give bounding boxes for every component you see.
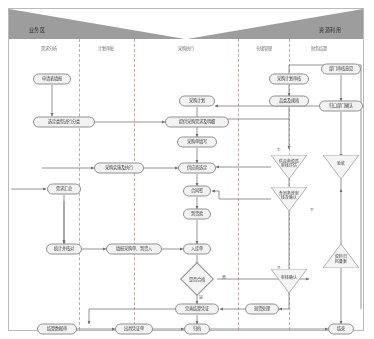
node-label: 采购计划审核 (277, 77, 301, 82)
node-采购实施执行[interactable]: 采购实施及执行 (94, 163, 144, 174)
edge-label-no: 否 (222, 274, 226, 280)
node-统计核对[interactable]: 统计并核对 (46, 244, 82, 255)
node-采购计划[interactable]: 采购计划 (179, 96, 215, 107)
node-label: 品类及规格 (279, 99, 299, 104)
node-label: 结束 (337, 327, 345, 332)
node-label: 资料归档备案 (335, 247, 347, 264)
node-label: 供应商资质审核评估 (279, 159, 299, 175)
node-label: 出具凭证单 (124, 327, 144, 332)
node-label: 到货验 (191, 212, 203, 217)
node-label: 申请表填报 (42, 77, 62, 82)
node-结算数据审[interactable]: 结算数据审 (37, 324, 77, 335)
diagram-frame: 业务区 资源利用 需求分析 计划审批 采购执行 仓储管理 财务结算 (8, 8, 364, 331)
node-label: 合同条款审核及确认 (279, 191, 299, 207)
node-label: 采购单填写 (187, 140, 207, 145)
node-退货处理[interactable]: 退货处理 (245, 304, 279, 315)
node-label: 验收 (337, 161, 345, 172)
node-需求汇总[interactable]: 需求汇总 (47, 184, 81, 195)
node-label: 审核确认 (281, 275, 297, 286)
node-填报采购单[interactable]: 填报采购单、到货入 (106, 244, 162, 255)
edge-marker-3: ③ (277, 265, 281, 270)
node-资料归档备案[interactable]: 资料归档备案 (323, 244, 359, 268)
node-入库单[interactable]: 入库单 (183, 244, 211, 255)
node-label: 采购实施及执行 (105, 166, 133, 171)
node-label: 选定类型进行分类 (48, 120, 80, 125)
edge-marker-2: ② (310, 207, 314, 212)
screenshot-root: 业务区 资源利用 需求分析 计划审批 采购执行 仓储管理 财务结算 (0, 0, 374, 339)
node-供应商选定[interactable]: 供应商选定 (178, 163, 216, 174)
node-label: 归口部门确认 (329, 104, 353, 109)
node-采购单填写[interactable]: 采购单填写 (177, 137, 217, 148)
node-出具凭证单[interactable]: 出具凭证单 (115, 324, 153, 335)
node-label: 完善结算凭证 (185, 307, 209, 312)
node-label: 是否合格 (189, 276, 205, 283)
node-归档[interactable]: 归档 (184, 324, 210, 335)
node-归口部门确认[interactable]: 归口部门确认 (319, 101, 363, 112)
node-结束[interactable]: 结束 (328, 324, 354, 335)
node-label: 填报采购单、到货入 (116, 247, 152, 252)
node-label: 供应商选定 (187, 166, 207, 171)
node-label: 入库单 (191, 247, 203, 252)
node-选定类型[interactable]: 选定类型进行分类 (33, 117, 95, 128)
node-部门审核意见[interactable]: 部门审核意见 (321, 64, 361, 75)
node-是否合格-decision[interactable]: 是否合格 (177, 264, 217, 294)
node-品类规格[interactable]: 品类及规格 (269, 96, 309, 107)
node-审核确认[interactable]: 审核确认 (271, 269, 307, 293)
node-验收[interactable]: 验收 (323, 155, 359, 179)
edge-label-yes: 是 (199, 294, 203, 300)
node-到货验[interactable]: 到货验 (183, 209, 211, 220)
edge-marker-1: ① (277, 147, 281, 152)
node-label: 归档 (193, 327, 201, 332)
node-label: 部门审核意见 (329, 67, 353, 72)
node-采购计划审核[interactable]: 采购计划审核 (269, 74, 309, 85)
node-申请表填报[interactable]: 申请表填报 (33, 74, 71, 85)
node-供应商资质审核[interactable]: 供应商资质审核评估 (271, 155, 307, 179)
node-完善结算凭证[interactable]: 完善结算凭证 (175, 304, 219, 315)
node-label: 合同签 (191, 189, 203, 194)
node-合同签[interactable]: 合同签 (183, 186, 211, 197)
node-label: 退货处理 (254, 307, 270, 312)
node-合同条款审核[interactable]: 合同条款审核及确认 (271, 187, 307, 211)
node-label: 需求汇总 (56, 187, 72, 192)
node-采购需求明细[interactable]: 提供采购需求及明细 (165, 117, 229, 128)
node-label: 采购计划 (189, 99, 205, 104)
node-label: 提供采购需求及明细 (179, 120, 215, 125)
node-label: 统计并核对 (54, 247, 74, 252)
node-label: 结算数据审 (47, 327, 67, 332)
